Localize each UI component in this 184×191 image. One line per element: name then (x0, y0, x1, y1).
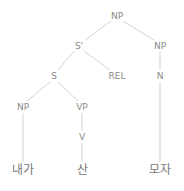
node-v: V (79, 133, 85, 142)
node-s: S (51, 72, 57, 81)
node-n: N (157, 72, 164, 81)
node-s-bar: S' (75, 42, 83, 51)
node-rel: REL (109, 72, 126, 81)
leaf-word-san: 산 (77, 164, 88, 176)
node-np-left: NP (17, 103, 29, 112)
node-np-root: NP (111, 12, 123, 21)
node-np-right: NP (154, 42, 166, 51)
leaf-word-moja: 모자 (149, 164, 171, 176)
node-vp: VP (76, 103, 88, 112)
leaf-word-naega: 내가 (12, 164, 34, 176)
